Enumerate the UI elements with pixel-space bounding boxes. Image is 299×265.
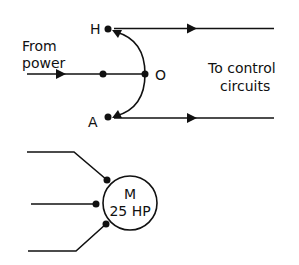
terminal-h-dot [105,26,112,33]
motor-feed-line-1 [27,152,107,180]
input-junction-dot [100,71,107,78]
terminal-a-label: A [88,114,98,130]
motor-feed-line-3 [28,224,106,251]
terminal-h-label: H [90,21,101,37]
output-label-to-control: To control [207,60,276,76]
terminal-a-dot [105,114,112,121]
motor-rating: 25 HP [109,203,150,219]
switch-arc-to-h [116,32,145,74]
motor-terminal-1 [104,177,111,184]
motor-terminal-2 [93,201,100,208]
motor-symbol: M [124,186,136,202]
output-label-circuits: circuits [220,78,270,94]
input-label-power: power [22,55,66,71]
terminal-o-label: O [155,67,166,83]
hoa-switch-diagram: H O A From power To control circuits M 2… [0,0,299,265]
output-arrow-a [187,113,197,123]
switch-arc-to-a [116,74,145,116]
output-arrow-h [187,24,197,34]
input-label-from: From [22,38,57,54]
motor-terminal-3 [103,221,110,228]
